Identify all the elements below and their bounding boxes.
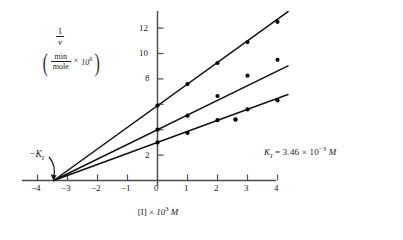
data-point [245,107,249,111]
minus-ki-text: −K [29,149,42,159]
x-axis-label-bracket: [I] [138,207,147,217]
x-tick-label--3: −3 [61,183,71,193]
data-point [215,61,219,65]
y-axis-label-fraction: 1 v [30,26,90,48]
y-axis-denominator: v [56,37,65,47]
data-point [155,104,159,108]
x-tick-label-0: 0 [154,183,159,193]
minus-ki-subscript: I [42,154,44,161]
x-axis-label-base: 10 [156,207,165,217]
y-tick-label-10: 10 [139,48,148,58]
ki-subscript: I [270,152,272,159]
one-over-v-fraction: 1 v [56,26,65,48]
data-point [215,94,219,98]
data-point [185,114,189,118]
units-power-exponent: 6 [89,56,92,62]
units-multiply-sign: × [74,57,79,65]
min-over-mole-fraction: min mole [51,52,71,71]
y-tick-marks [158,28,164,155]
series-line-2-middle [54,66,288,181]
data-point [275,20,279,24]
y-axis-numerator: 1 [56,26,65,37]
x-axis-label: [I] × 103 M [103,205,213,217]
y-tick-label-2: 2 [145,150,150,160]
data-point [185,82,189,86]
x-tick-label-4: 4 [274,183,279,193]
x-tick-label-2: 2 [214,183,219,193]
x-tick-label--4: −4 [31,183,41,193]
x-axis-label-exponent: 3 [165,205,168,212]
x-tick-label--1: −1 [121,183,131,193]
data-point [275,58,279,62]
x-axis-label-unit: M [171,207,179,217]
ki-value-label: KI = 3.46 × 10−3 M [264,145,336,159]
data-point [185,131,189,135]
series-line-3-shallowest [54,95,288,181]
x-tick-label-1: 1 [184,183,189,193]
units-numerator: min [51,52,71,62]
units-power: 106 [81,56,92,67]
data-point [215,118,219,122]
minus-ki-label: −KI [29,149,44,161]
ki-multiply-sign: × [302,147,307,157]
data-point [155,128,159,132]
ki-power-exponent: −3 [319,145,326,152]
outlier-markers [233,117,237,121]
x-tick-label-3: 3 [244,183,249,193]
data-point [245,40,249,44]
x-tick-label--2: −2 [91,183,101,193]
y-tick-label-8: 8 [145,73,150,83]
minus-ki-arrow [49,157,57,181]
units-denominator: mole [51,62,71,71]
y-tick-label-12: 12 [139,23,148,33]
ki-power-base: 10 [310,147,319,157]
ki-unit: M [329,147,337,157]
data-point [245,74,249,78]
data-point [155,140,159,144]
data-point [275,98,279,102]
ki-numeric-value: 3.46 [283,147,300,157]
ki-equals-sign: = [275,147,280,157]
stray-data-point [233,117,237,121]
y-axis-units-label: ( min mole × 106 ) [14,52,129,71]
x-axis-label-multiply: × [149,207,154,217]
